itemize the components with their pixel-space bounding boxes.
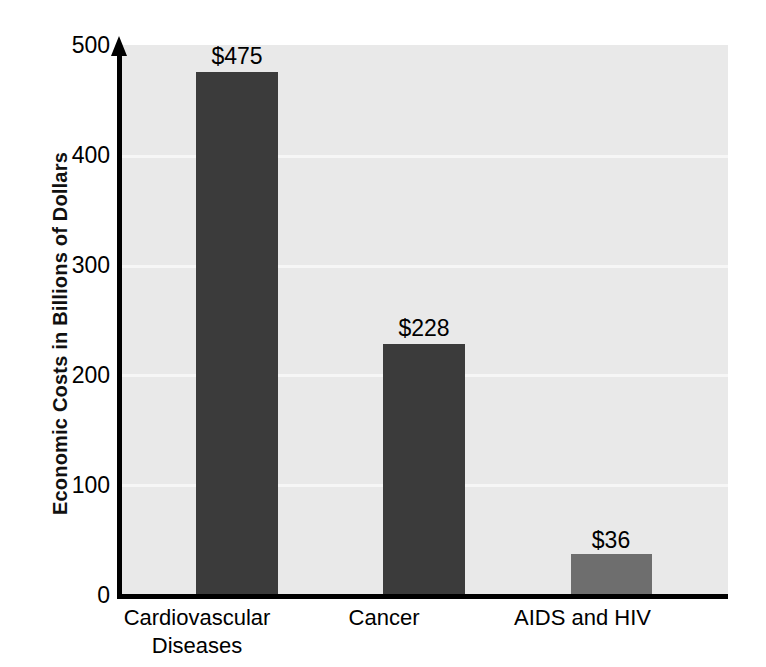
bar-aids-and-hiv[interactable] xyxy=(571,554,652,594)
y-tick-500: 500 xyxy=(48,34,110,57)
y-tick-100: 100 xyxy=(48,474,110,497)
y-tick-400: 400 xyxy=(48,144,110,167)
bar-cardiovascular-diseases[interactable] xyxy=(196,72,278,594)
x-category-label-cardiovascular-diseases: Cardiovascular Diseases xyxy=(116,604,278,659)
bar-value-cancer: $228 xyxy=(343,317,505,340)
bar-cancer[interactable] xyxy=(383,344,465,594)
x-category-label-cancer: Cancer xyxy=(303,604,465,632)
x-axis-line xyxy=(117,594,728,599)
y-tick-0: 0 xyxy=(48,584,110,607)
x-category-label-aids-and-hiv: AIDS and HIV xyxy=(490,604,675,632)
y-tick-300: 300 xyxy=(48,254,110,277)
y-axis-line xyxy=(117,52,122,597)
y-axis-arrow-icon xyxy=(111,36,127,56)
bar-value-cardiovascular-diseases: $475 xyxy=(156,45,318,68)
y-axis-tick-labels: 500 400 300 200 100 0 xyxy=(42,0,110,667)
y-tick-200: 200 xyxy=(48,364,110,387)
bar-value-aids-and-hiv: $36 xyxy=(530,529,692,552)
bar-chart-figure: Economic Costs in Billions of Dollars 50… xyxy=(0,0,766,667)
